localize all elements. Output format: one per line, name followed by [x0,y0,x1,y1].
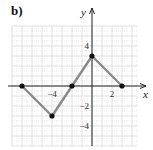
y-tick-label: 4 [85,41,90,51]
data-point [69,83,74,88]
data-point [19,83,24,88]
data-point [49,113,54,118]
y-tick-label: −2 [79,101,89,111]
coordinate-plane: xy −424−2−4 [0,0,153,150]
x-tick-label: 2 [110,89,115,99]
x-axis-label: x [142,88,148,100]
y-axis-label: y [80,6,86,18]
x-tick-label: −4 [47,89,57,99]
y-tick-label: −4 [79,121,89,131]
data-point [89,53,94,58]
data-point [119,83,124,88]
